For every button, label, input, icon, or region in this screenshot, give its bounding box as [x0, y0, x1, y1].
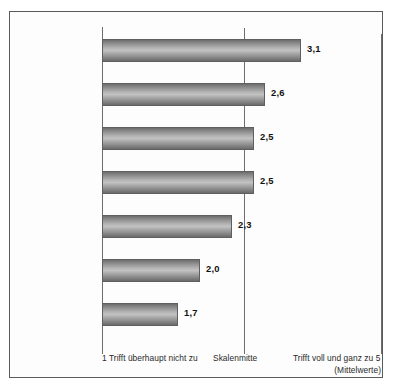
chart-frame: Mitmachen setzt voraus, sich auch persön…: [9, 11, 383, 378]
axis-note: (Mittelwerte): [293, 365, 381, 375]
bar-6[interactable]: [102, 303, 178, 326]
axis-caption-mid: Skalenmitte: [213, 353, 257, 363]
bar-4[interactable]: [102, 215, 232, 238]
bar-1[interactable]: [102, 83, 265, 106]
bar-value-0: 3,1: [307, 43, 321, 54]
gridline-scale-max: [381, 34, 382, 354]
axis-tick-5: [381, 342, 382, 349]
bar-3[interactable]: [102, 171, 254, 194]
axis-tick-3: [244, 342, 245, 349]
axis-tick-1: [102, 342, 103, 349]
bar-value-2: 2,5: [260, 131, 274, 142]
bar-value-3: 2,5: [260, 175, 274, 186]
bar-value-6: 1,7: [184, 307, 198, 318]
bar-2[interactable]: [102, 127, 254, 150]
bar-5[interactable]: [102, 259, 200, 282]
bar-value-1: 2,6: [271, 87, 285, 98]
bar-value-4: 2,3: [238, 219, 252, 230]
bar-value-5: 2,0: [206, 263, 220, 274]
axis-caption-low: 1 Trifft überhaupt nicht zu: [102, 353, 198, 363]
bar-0[interactable]: [102, 39, 301, 62]
axis-caption-high: Trifft voll und ganz zu 5: [293, 353, 380, 363]
plot-area: Mitmachen setzt voraus, sich auch persön…: [10, 12, 384, 379]
